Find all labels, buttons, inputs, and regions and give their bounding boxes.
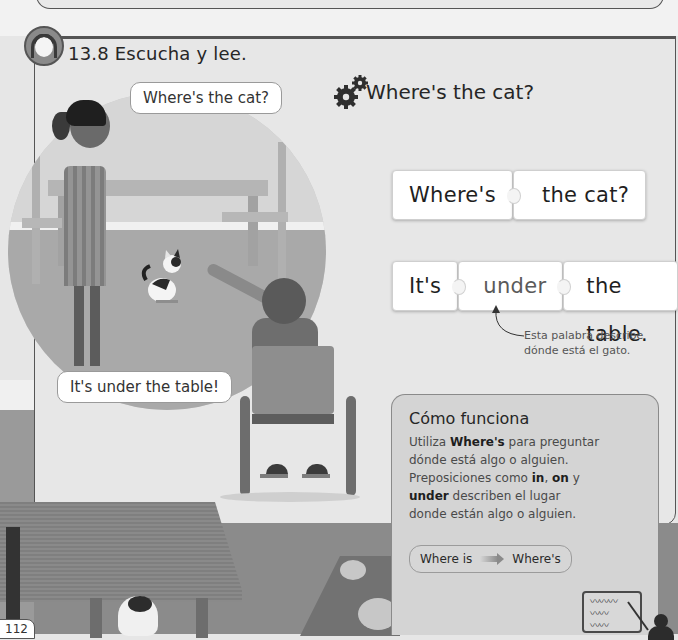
how-it-works-title: Cómo funciona xyxy=(409,409,529,428)
wheelchair-back xyxy=(252,346,334,414)
wheelchair-footrest xyxy=(302,474,330,478)
floor-shadow xyxy=(220,492,360,502)
scene-chair-seat xyxy=(222,212,288,222)
previous-section-box xyxy=(36,0,664,9)
boy-speech-bubble: It's under the table! xyxy=(57,371,232,403)
cat-patch xyxy=(128,596,152,612)
puzzle-knob xyxy=(557,279,571,295)
rug-dot xyxy=(340,560,366,580)
board-squiggle: 〰〰 xyxy=(590,609,608,619)
puzzle-piece-the-cat: the cat? xyxy=(513,170,646,220)
how-it-works-box: Cómo funciona Utiliza Where's para pregu… xyxy=(391,394,659,635)
puzzle-piece-text: under xyxy=(483,274,546,298)
table-leg xyxy=(196,598,208,638)
scene-table-leg xyxy=(248,196,258,266)
section-header-rule xyxy=(34,36,676,39)
page-number: 112 xyxy=(0,619,35,639)
how-it-works-body: Utiliza Where's para preguntar dónde est… xyxy=(409,433,649,523)
wheelchair-seat xyxy=(252,414,334,424)
answer-puzzle: It's under the table. xyxy=(392,261,678,311)
section-title: 13.8 Escucha y lee. xyxy=(68,43,247,64)
wheelchair-wheel xyxy=(240,396,250,496)
annotation-note: Esta palabra describe dónde está el gato… xyxy=(524,328,643,358)
body-line: Preposiciones como in, on y xyxy=(409,469,649,487)
scene-chair-seat xyxy=(22,218,62,228)
scene-chair xyxy=(32,134,40,284)
annotation-line: dónde está el gato. xyxy=(524,343,643,358)
body-line: under describen el lugar xyxy=(409,487,649,505)
puzzle-piece-the-table: the table. xyxy=(563,261,678,311)
boy-speech-text: It's under the table! xyxy=(70,378,219,396)
contraction-pill: Where is Where's xyxy=(409,545,572,573)
wheelchair-footrest xyxy=(260,474,288,478)
boy-head xyxy=(262,278,306,324)
puzzle-piece-text: Where's xyxy=(409,183,496,207)
table-illustration xyxy=(0,502,242,602)
girl-leg xyxy=(90,286,100,366)
wheelchair-wheel xyxy=(346,396,356,496)
board-squiggle: 〰〰〰 xyxy=(590,597,617,607)
girl-leg xyxy=(74,286,84,366)
body-line: dónde está algo o alguien. xyxy=(409,451,649,469)
annotation-line: Esta palabra describe xyxy=(524,328,643,343)
gears-icon xyxy=(334,75,368,109)
puzzle-knob xyxy=(507,188,521,204)
grammar-heading: Where's the cat? xyxy=(366,80,534,104)
puzzle-piece-wheres: Where's xyxy=(392,170,513,220)
puzzle-knob xyxy=(452,279,466,295)
girl-dress xyxy=(64,166,106,286)
table-leg xyxy=(90,598,102,638)
board-squiggle: 〰〰 xyxy=(590,621,608,631)
puzzle-piece-text: the cat? xyxy=(542,183,629,207)
contraction-from: Where is xyxy=(420,546,472,572)
contraction-to: Where's xyxy=(512,546,560,572)
girl-speech-bubble: Where's the cat? xyxy=(130,82,282,114)
puzzle-piece-its: It's xyxy=(392,261,458,311)
puzzle-piece-text: It's xyxy=(409,274,441,298)
annotation-arrow-icon xyxy=(486,304,526,344)
audio-track-icon[interactable] xyxy=(24,26,64,66)
body-line: Utiliza Where's para preguntar xyxy=(409,433,649,451)
girl-hair xyxy=(66,100,106,126)
teacher-body-icon xyxy=(648,626,674,640)
right-arrow-icon xyxy=(480,556,498,562)
cat-illustration xyxy=(140,246,190,306)
girl-speech-text: Where's the cat? xyxy=(143,89,269,107)
question-puzzle: Where's the cat? xyxy=(392,170,646,220)
body-line: donde están algo o alguien. xyxy=(409,505,649,523)
chair-post xyxy=(6,527,20,634)
headphones-icon xyxy=(31,34,57,58)
